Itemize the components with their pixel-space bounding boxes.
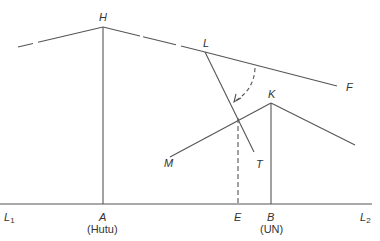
curve-h-to-l-2 <box>143 37 176 45</box>
line-k-to-m <box>170 103 271 157</box>
label-b-note: (UN) <box>260 224 283 235</box>
line-k-to-right <box>271 103 355 145</box>
label-l2-sub: 2 <box>366 216 370 225</box>
label-a-note: (Hutu) <box>87 224 118 235</box>
line-l-to-t <box>205 52 254 152</box>
curve-left-of-h-2 <box>38 27 103 42</box>
label-f: F <box>346 82 353 93</box>
label-l1: L1 <box>4 212 15 225</box>
bargaining-diagram <box>0 0 380 241</box>
label-t: T <box>256 159 263 170</box>
label-a: A <box>99 212 106 223</box>
curve-h-to-l-3 <box>181 46 205 52</box>
label-h: H <box>99 12 107 23</box>
label-e: E <box>234 212 241 223</box>
label-l2: L2 <box>360 212 371 225</box>
line-l-to-f <box>205 52 337 86</box>
curve-left-of-h-1 <box>18 44 33 48</box>
label-l1-sub: 1 <box>10 216 14 225</box>
curve-h-to-l-1 <box>103 27 140 36</box>
rotation-arc-dashed <box>235 68 255 101</box>
arrowhead-icon <box>234 94 241 102</box>
label-k: K <box>268 89 275 100</box>
label-m: M <box>164 158 173 169</box>
label-l: L <box>203 38 209 49</box>
label-b: B <box>267 212 274 223</box>
